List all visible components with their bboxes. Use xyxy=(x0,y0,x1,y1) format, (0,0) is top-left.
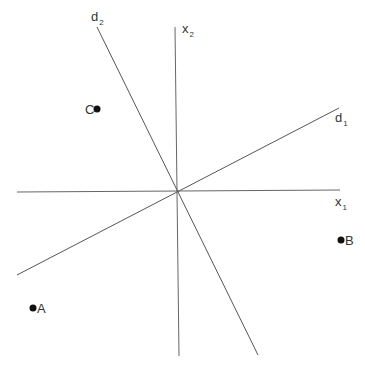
d2-label: d2 xyxy=(91,9,104,27)
diagram-canvas: x1 x2 d1 d2 C B A xyxy=(0,0,365,368)
point-b-marker xyxy=(338,237,345,244)
point-b-label: B xyxy=(345,233,354,248)
d1-label: d1 xyxy=(335,110,348,128)
point-c-marker xyxy=(94,106,101,113)
point-a-marker xyxy=(30,305,37,312)
point-c-label: C xyxy=(85,102,94,117)
x2-axis-label: x2 xyxy=(182,21,195,39)
x1-axis-label: x1 xyxy=(335,194,348,212)
point-a-label: A xyxy=(37,301,46,316)
